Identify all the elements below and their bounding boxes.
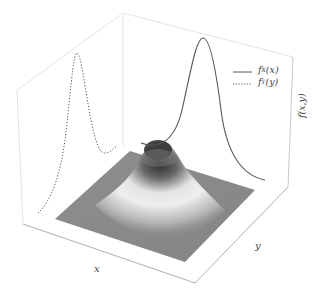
surface-plot — [0, 0, 329, 295]
legend-fx-arg: (x) — [266, 64, 279, 75]
legend-entry-fy: fY(y) — [258, 76, 278, 87]
z-axis-label: f(x,y) — [296, 93, 307, 118]
legend-entry-fx: fX(x) — [258, 64, 279, 75]
x-axis-label: x — [94, 263, 100, 274]
legend-fy-arg: (y) — [266, 76, 279, 87]
y-axis-label: y — [255, 240, 261, 251]
